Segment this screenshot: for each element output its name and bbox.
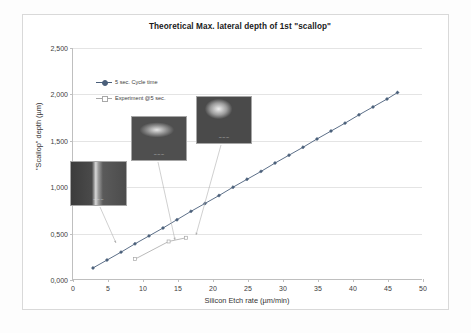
gridline xyxy=(73,48,422,49)
x-axis-tick-label: 20 xyxy=(209,285,217,292)
x-axis-tick-label: 25 xyxy=(244,285,252,292)
chart-title: Theoretical Max. lateral depth of 1st "s… xyxy=(110,22,370,31)
x-axis-tick-label: 30 xyxy=(279,285,287,292)
x-axis-tick-mark xyxy=(423,279,424,282)
y-axis-title: "Scallop" depth (µm) xyxy=(34,103,43,170)
y-axis-tick-label: 2,500 xyxy=(50,45,68,52)
legend-label: Experiment @5 sec. xyxy=(115,95,165,101)
legend-marker-icon xyxy=(96,95,112,102)
x-axis-tick-mark xyxy=(73,279,74,282)
x-axis-tick-mark xyxy=(283,279,284,282)
y-axis-tick-label: 1,000 xyxy=(50,184,68,191)
x-axis-tick-mark xyxy=(318,279,319,282)
x-axis-tick-mark xyxy=(353,279,354,282)
x-axis-tick-mark xyxy=(388,279,389,282)
y-axis-tick-label: 0,500 xyxy=(50,230,68,237)
sem-scale-bar-low: — — — xyxy=(75,197,121,203)
chart-container: Theoretical Max. lateral depth of 1st "s… xyxy=(0,0,471,333)
x-axis-tick-label: 45 xyxy=(384,285,392,292)
legend-item-cycle-time[interactable]: 5 sec. Cycle time xyxy=(96,74,206,90)
gridline xyxy=(73,234,422,235)
y-axis-tick-mark xyxy=(70,141,73,142)
x-axis-title: Silicon Etch rate (µm/min) xyxy=(72,296,422,305)
x-axis-tick-mark xyxy=(143,279,144,282)
legend-label: 5 sec. Cycle time xyxy=(115,79,158,85)
x-axis-tick-label: 40 xyxy=(349,285,357,292)
sem-micrograph-low-rate: — — — xyxy=(70,161,127,206)
y-axis-tick-label: 0,000 xyxy=(50,277,68,284)
y-axis-tick-mark xyxy=(70,234,73,235)
x-axis-tick-mark xyxy=(213,279,214,282)
y-axis-tick-label: 1,500 xyxy=(50,137,68,144)
x-axis-tick-label: 15 xyxy=(174,285,182,292)
sem-micrograph-mid-rate: — — — xyxy=(131,116,187,161)
y-axis-tick-mark xyxy=(70,48,73,49)
chart-legend: 5 sec. Cycle time Experiment @5 sec. xyxy=(96,74,206,106)
legend-item-experiment[interactable]: Experiment @5 sec. xyxy=(96,90,206,106)
x-axis-tick-label: 50 xyxy=(419,285,427,292)
x-axis-tick-label: 0 xyxy=(71,285,75,292)
x-axis-tick-label: 10 xyxy=(139,285,147,292)
y-axis-tick-mark xyxy=(70,94,73,95)
x-axis-tick-label: 35 xyxy=(314,285,322,292)
y-axis-tick-label: 2,000 xyxy=(50,91,68,98)
sem-scale-bar-mid: — — — xyxy=(136,152,181,158)
x-axis-tick-mark xyxy=(108,279,109,282)
x-axis-tick-mark xyxy=(248,279,249,282)
x-axis-tick-mark xyxy=(178,279,179,282)
sem-scale-bar-high: — — — xyxy=(201,134,246,140)
legend-marker-icon xyxy=(96,79,112,86)
x-axis-tick-label: 5 xyxy=(106,285,110,292)
